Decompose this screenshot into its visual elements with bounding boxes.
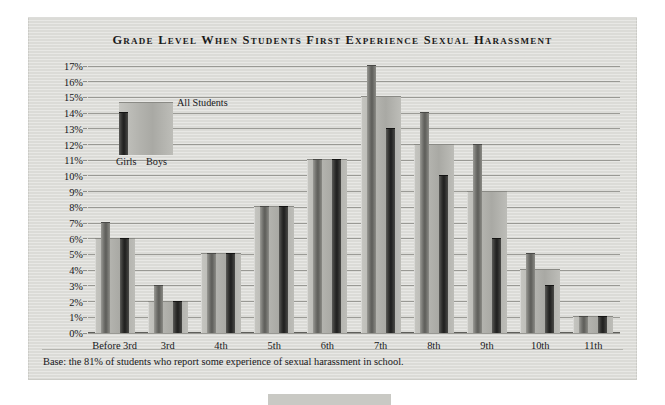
bar-girls (154, 285, 163, 333)
chart-panel: Grade Level When Students First Experien… (28, 17, 637, 380)
y-tick-label: 15% (64, 92, 83, 103)
bar-girls (101, 222, 110, 333)
chart-title: Grade Level When Students First Experien… (28, 33, 637, 48)
bar-girls (579, 316, 588, 333)
y-tick-mark (83, 191, 87, 192)
y-tick-mark (83, 317, 87, 318)
bar-boys (226, 253, 235, 333)
y-tick-mark (83, 128, 87, 129)
y-tick-label: 9% (69, 186, 83, 197)
y-tick-mark (83, 223, 87, 224)
y-tick-mark (83, 254, 87, 255)
y-tick-label: 12% (64, 139, 83, 150)
y-tick-label: 17% (64, 61, 83, 72)
y-tick-mark (83, 285, 87, 286)
bar-group (194, 66, 247, 333)
y-tick-mark (83, 97, 87, 98)
y-tick-mark (83, 175, 87, 176)
bar-girls (526, 253, 535, 333)
y-tick-label: 10% (64, 170, 83, 181)
bar-girls (473, 144, 482, 333)
bar-boys (439, 175, 448, 333)
y-tick-label: 1% (69, 312, 83, 323)
y-tick-label: 3% (69, 280, 83, 291)
y-tick-mark (83, 270, 87, 271)
y-tick-label: 11% (64, 155, 83, 166)
y-tick-label: 0% (69, 328, 83, 339)
bar-group (514, 66, 567, 333)
y-tick-mark (83, 81, 87, 82)
y-tick-label: 7% (69, 218, 83, 229)
bar-boys (173, 301, 182, 333)
bar-girls (207, 253, 216, 333)
bar-boys (545, 285, 554, 333)
y-tick-mark (83, 144, 87, 145)
bar-boys (120, 238, 129, 333)
y-tick-label: 2% (69, 296, 83, 307)
chart-footnote: Base: the 81% of students who report som… (43, 356, 404, 367)
bar-group (248, 66, 301, 333)
bar-girls (420, 112, 429, 333)
bar-boys (492, 238, 501, 333)
footnote-divider (42, 349, 623, 350)
y-tick-label: 8% (69, 202, 83, 213)
bar-group (141, 66, 194, 333)
y-tick-label: 4% (69, 265, 83, 276)
y-tick-mark (83, 207, 87, 208)
y-tick-label: 16% (64, 76, 83, 87)
bar-girls (260, 206, 269, 333)
plot-area: 0%1%2%3%4%5%6%7%8%9%10%11%12%13%14%15%16… (88, 66, 620, 333)
y-tick-mark (83, 301, 87, 302)
bar-boys (598, 316, 607, 333)
y-tick-mark (83, 160, 87, 161)
y-tick-mark (83, 333, 87, 334)
bar-girls (313, 159, 322, 333)
bar-group (301, 66, 354, 333)
bar-group (567, 66, 620, 333)
y-tick-mark (83, 113, 87, 114)
y-tick-label: 14% (64, 108, 83, 119)
y-tick-label: 6% (69, 233, 83, 244)
bar-girls (367, 65, 376, 333)
bar-boys (332, 159, 341, 333)
y-tick-mark (83, 66, 87, 67)
bar-boys (386, 128, 395, 333)
bar-group (460, 66, 513, 333)
bar-group (88, 66, 141, 333)
y-tick-label: 5% (69, 249, 83, 260)
bar-group (354, 66, 407, 333)
y-tick-label: 13% (64, 123, 83, 134)
bar-boys (279, 206, 288, 333)
bar-group (407, 66, 460, 333)
bottom-stub (268, 394, 391, 405)
y-tick-mark (83, 238, 87, 239)
